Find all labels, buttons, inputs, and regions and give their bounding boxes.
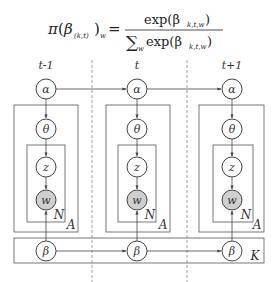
plate-a-label: A	[66, 218, 76, 232]
node-theta-label: θ	[134, 123, 141, 136]
node-beta-label: β	[42, 245, 49, 258]
plate-n-label: N	[240, 208, 252, 222]
plate-n-label: N	[144, 208, 156, 222]
node-alpha-label: α	[42, 83, 50, 96]
node-z-label: z	[133, 161, 140, 174]
node-w-label: w	[227, 194, 237, 207]
plate-n-label: N	[53, 208, 65, 222]
time-label-next: t+1	[222, 59, 243, 72]
node-theta-label: θ	[43, 123, 50, 136]
node-z-label: z	[42, 161, 49, 174]
node-beta-label: β	[228, 245, 235, 258]
node-theta-label: θ	[229, 123, 236, 136]
time-slice-next: A N α θ z w β	[199, 79, 264, 261]
plate-k-label: K	[250, 249, 261, 263]
node-beta-label: β	[133, 245, 140, 258]
node-alpha-label: α	[133, 83, 141, 96]
graphical-model: t-1 t t+1 K A N α θ z w β A N	[0, 0, 275, 282]
time-slice-prev: A N α θ z w β	[14, 79, 78, 261]
time-label-current: t	[135, 59, 140, 72]
time-slice-current: A N α θ z w β	[106, 79, 170, 261]
node-w-label: w	[132, 194, 142, 207]
time-label-prev: t-1	[38, 59, 53, 72]
node-z-label: z	[228, 161, 235, 174]
node-w-label: w	[41, 194, 51, 207]
plate-a-label: A	[158, 218, 168, 232]
node-alpha-label: α	[228, 83, 236, 96]
